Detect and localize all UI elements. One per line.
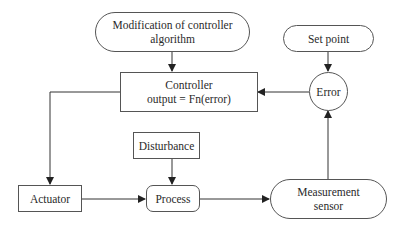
node-process: Process <box>146 185 200 212</box>
node-set-point: Set point <box>283 25 374 52</box>
node-label-line: Measurement <box>297 185 360 199</box>
node-error: Error <box>309 72 348 111</box>
node-label-line: Process <box>155 192 190 206</box>
node-label-line: Controller <box>147 78 231 92</box>
node-label-line: Disturbance <box>139 139 195 153</box>
node-modification-of-controller-algorithm: Modification of controller algorithm <box>95 12 250 52</box>
node-measurement-sensor: Measurement sensor <box>270 179 387 219</box>
node-label-line: Modification of controller <box>112 18 232 32</box>
node-label-line: algorithm <box>112 32 232 46</box>
node-actuator: Actuator <box>18 185 82 212</box>
node-disturbance: Disturbance <box>133 132 200 159</box>
node-label-line: Set point <box>308 32 349 46</box>
node-controller: Controller output = Fn(error) <box>120 72 258 112</box>
edge-controller-actuator <box>50 92 120 184</box>
node-label-line: sensor <box>297 199 360 213</box>
node-label-line: output = Fn(error) <box>147 92 231 106</box>
node-label-line: Error <box>316 85 340 99</box>
node-label-line: Actuator <box>30 192 70 206</box>
